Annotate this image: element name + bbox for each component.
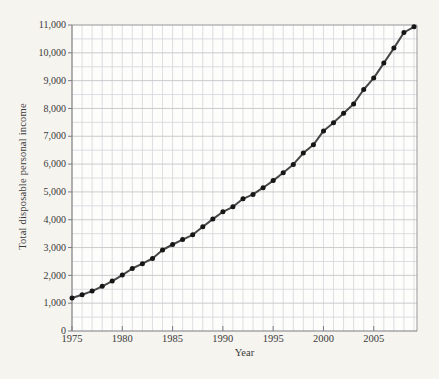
data-point-1979	[110, 279, 115, 284]
data-point-2005	[371, 76, 376, 81]
data-point-1999	[311, 142, 316, 147]
y-tick-label: 2,000	[44, 270, 67, 281]
data-point-1993	[251, 192, 256, 197]
x-tick-label: 1995	[263, 333, 284, 344]
data-point-1990	[220, 209, 225, 214]
y-tick-label: 5,000	[44, 186, 67, 197]
y-axis-title: Total disposable personal income	[17, 64, 28, 290]
data-point-2001	[331, 120, 336, 125]
data-point-2002	[341, 111, 346, 116]
data-point-1981	[130, 266, 135, 271]
data-point-2006	[381, 61, 386, 66]
data-point-2003	[351, 101, 356, 106]
x-tick-label: 2005	[363, 333, 384, 344]
data-point-1995	[271, 178, 276, 183]
y-tick-label: 7,000	[44, 130, 67, 141]
x-axis-title: Year	[72, 347, 417, 358]
y-tick-label: 3,000	[44, 242, 67, 253]
x-tick-label: 1975	[62, 333, 83, 344]
data-point-1985	[170, 242, 175, 247]
data-point-1988	[200, 224, 205, 229]
x-tick-label: 2000	[313, 333, 334, 344]
data-point-1983	[150, 256, 155, 261]
y-tick-label: 11,000	[39, 19, 66, 30]
data-point-1987	[190, 232, 195, 237]
x-tick-label: 1985	[162, 333, 183, 344]
data-point-1997	[291, 162, 296, 167]
y-tick-label: 4,000	[44, 214, 67, 225]
y-tick-label: 9,000	[44, 75, 67, 86]
x-tick-label: 1990	[212, 333, 233, 344]
y-axis-ticks: 01,0002,0003,0004,0005,0006,0007,0008,00…	[39, 19, 73, 336]
y-tick-label: 10,000	[39, 47, 67, 58]
x-tick-label: 1980	[112, 333, 133, 344]
data-point-1989	[210, 217, 215, 222]
data-point-2009	[412, 24, 417, 29]
data-point-1980	[120, 273, 125, 278]
data-point-1977	[90, 289, 95, 294]
data-point-2007	[391, 46, 396, 51]
data-point-1976	[80, 292, 85, 297]
line-chart: 01,0002,0003,0004,0005,0006,0007,0008,00…	[0, 0, 439, 379]
data-point-1992	[241, 196, 246, 201]
data-point-2004	[361, 87, 366, 92]
data-point-1991	[230, 204, 235, 209]
data-point-2008	[401, 30, 406, 35]
data-point-1975	[70, 296, 75, 301]
data-point-1984	[160, 248, 165, 253]
data-point-1982	[140, 261, 145, 266]
data-point-1978	[100, 284, 105, 289]
data-point-1998	[301, 151, 306, 156]
y-tick-label: 8,000	[44, 103, 67, 114]
y-tick-label: 6,000	[44, 158, 67, 169]
data-point-2000	[321, 128, 326, 133]
data-point-1986	[180, 237, 185, 242]
data-point-1996	[281, 170, 286, 175]
chart-figure: 01,0002,0003,0004,0005,0006,0007,0008,00…	[0, 0, 439, 379]
y-tick-label: 1,000	[44, 297, 67, 308]
data-point-1994	[261, 185, 266, 190]
